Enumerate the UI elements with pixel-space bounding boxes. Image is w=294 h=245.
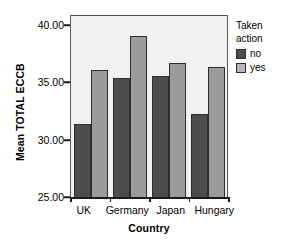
legend-title-line-2: action [236, 32, 294, 45]
bar-uk-yes[interactable] [91, 70, 108, 197]
x-axis-tick-mark [70, 197, 72, 202]
bar-japan-no[interactable] [152, 76, 169, 197]
legend-item-no[interactable]: no [236, 48, 294, 59]
x-axis-tick-labels: UK Germany Japan Hungary [62, 204, 236, 216]
legend-swatch-no [236, 49, 246, 59]
bar-germany-yes[interactable] [130, 36, 147, 197]
bar-chart: Mean TOTAL ECCB 40.00 35.00 30.00 25.00 … [0, 0, 294, 245]
legend-item-yes[interactable]: yes [236, 62, 294, 73]
bar-group [188, 16, 227, 197]
x-axis-tick-label: Japan [149, 204, 193, 216]
x-axis-tick-label: UK [62, 204, 106, 216]
y-axis-tick-labels: 40.00 35.00 30.00 25.00 [26, 0, 64, 245]
bar-groups [71, 16, 227, 197]
y-axis-tick-label: 35.00 [26, 76, 64, 88]
legend-title-line-1: Taken [236, 19, 294, 32]
bar-japan-yes[interactable] [169, 63, 186, 197]
x-axis-tick-label: Hungary [193, 204, 237, 216]
plot-area [70, 15, 228, 198]
x-axis-tick-mark [149, 197, 151, 202]
x-axis-title: Country [70, 222, 228, 234]
bar-germany-no[interactable] [113, 78, 130, 197]
bar-group [110, 16, 149, 197]
x-axis-tick-mark [110, 197, 112, 202]
legend-swatch-yes [236, 63, 246, 73]
x-axis-tick-label: Germany [106, 204, 150, 216]
bar-hungary-no[interactable] [191, 114, 208, 197]
bar-uk-no[interactable] [74, 124, 91, 197]
y-axis-tick-label: 40.00 [26, 19, 64, 31]
bar-group [71, 16, 110, 197]
bar-hungary-yes[interactable] [208, 67, 225, 197]
legend-label-yes: yes [250, 62, 266, 73]
x-axis-tick-mark [189, 197, 191, 202]
x-axis-tick-mark [228, 197, 230, 202]
legend: Taken action no yes [236, 19, 294, 73]
y-axis-tick-label: 25.00 [26, 191, 64, 203]
y-axis-tick-label: 30.00 [26, 134, 64, 146]
legend-label-no: no [250, 48, 261, 59]
x-axis-tick-marks [70, 197, 228, 203]
bar-group [149, 16, 188, 197]
